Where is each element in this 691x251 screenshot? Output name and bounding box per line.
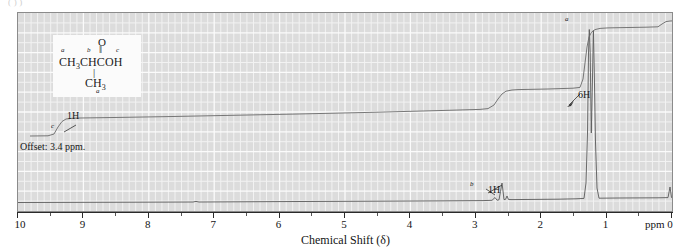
peak-label-c: c [51,122,54,130]
peak-label-a: a [565,15,569,23]
axis-label-2: 2 [537,218,543,230]
axis-title: Chemical Shift (δ) [0,233,691,248]
spectrum-plot-area: a b c O ‖ CH3CHCOH | CH3 a [17,12,673,212]
axis-label-8: 8 [145,218,151,230]
integration-label-c: 1H [67,110,79,121]
axis-label-1: 1 [603,218,609,230]
axis-label-6: 6 [276,218,282,230]
axis-tick-minor-95 [50,213,51,216]
integration-label-a: 6H [578,89,590,100]
structure-main-chain: CH3CHCOH [59,55,123,71]
ppm-unit-label: ppm [645,218,665,230]
axis-tick-minor-65 [246,213,247,216]
axis-label-0: 0 [667,218,673,230]
nmr-spectrum-figure: ( ) ) [0,0,691,251]
structure-label-b: b [87,46,91,54]
axis-label-3: 3 [472,218,478,230]
axis-label-10: 10 [15,218,26,230]
structure-label-a-bottom: a [96,87,100,95]
molecular-structure-inset: a b c O ‖ CH3CHCOH | CH3 a [53,35,141,97]
axis-label-4: 4 [407,218,413,230]
structure-label-c: c [116,46,119,54]
structure-double-bond: ‖ [99,45,101,54]
axis-label-9: 9 [80,218,86,230]
axis-tick-minor-75 [181,213,182,216]
peak-label-b: b [470,180,474,188]
axis-label-5: 5 [341,218,347,230]
top-caption-fragment: ( ) ) [8,0,208,9]
axis-tick-minor-15 [573,213,574,216]
axis-tick-minor-55 [311,213,312,216]
axis-tick-minor-35 [442,213,443,216]
chemical-shift-axis: 10 9 8 7 6 5 4 3 2 1 0 [17,212,673,226]
axis-tick-minor-05 [638,213,639,216]
axis-label-7: 7 [210,218,216,230]
offset-note: Offset: 3.4 ppm. [20,141,85,152]
integration-label-b: 1H [488,184,500,195]
axis-tick-minor-45 [377,213,378,216]
structure-label-a-top: a [61,46,65,54]
axis-tick-minor-25 [508,213,509,216]
axis-tick-minor-85 [115,213,116,216]
